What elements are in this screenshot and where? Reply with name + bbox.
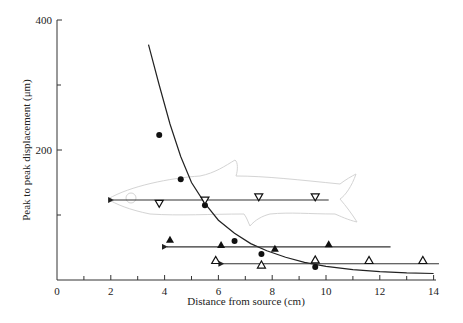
filled-triangle-up-marker bbox=[166, 236, 174, 243]
y-tick-400: 400 bbox=[36, 14, 53, 26]
x-tick-8: 8 bbox=[269, 285, 275, 297]
filled-circle-marker bbox=[312, 264, 318, 270]
open-triangle-down-marker bbox=[155, 200, 163, 207]
x-tick-14: 14 bbox=[428, 285, 440, 297]
filled-triangle-up-marker bbox=[325, 240, 333, 247]
open-triangle-up-marker bbox=[419, 257, 427, 264]
x-axis-title: Distance from source (cm) bbox=[187, 295, 305, 308]
x-tick-4: 4 bbox=[162, 285, 168, 297]
y-axis-title: Peak to peak displacement (μm) bbox=[20, 79, 33, 221]
x-tick-12: 12 bbox=[374, 285, 385, 297]
chart-canvas: 400 200 Peak to peak displacement (μm) D… bbox=[0, 0, 463, 323]
y-tick-200: 200 bbox=[36, 144, 53, 156]
x-tick-2: 2 bbox=[108, 285, 114, 297]
open-triangle-up-marker bbox=[257, 261, 265, 268]
open-triangle-up-marker bbox=[311, 256, 319, 263]
filled-circle-marker bbox=[178, 176, 184, 182]
x-tick-0: 0 bbox=[54, 285, 60, 297]
fish-outline-icon bbox=[108, 160, 357, 226]
filled-circle-marker bbox=[258, 251, 264, 257]
fit-curve bbox=[149, 45, 434, 274]
x-axis: Distance from source (cm) 02468101214 bbox=[54, 275, 439, 308]
open-triangle-up-marker bbox=[365, 257, 373, 264]
filled-circle-marker bbox=[156, 132, 162, 138]
y-axis: 400 200 Peak to peak displacement (μm) bbox=[20, 14, 62, 280]
x-tick-6: 6 bbox=[216, 285, 222, 297]
filled-triangle-up-marker bbox=[271, 245, 279, 252]
filled-triangle-up-marker bbox=[217, 241, 225, 248]
x-tick-10: 10 bbox=[321, 285, 333, 297]
open-triangle-up-marker bbox=[212, 257, 220, 264]
data-markers bbox=[155, 132, 427, 270]
filled-circle-marker bbox=[232, 238, 238, 244]
fish-eye-icon bbox=[126, 193, 136, 203]
